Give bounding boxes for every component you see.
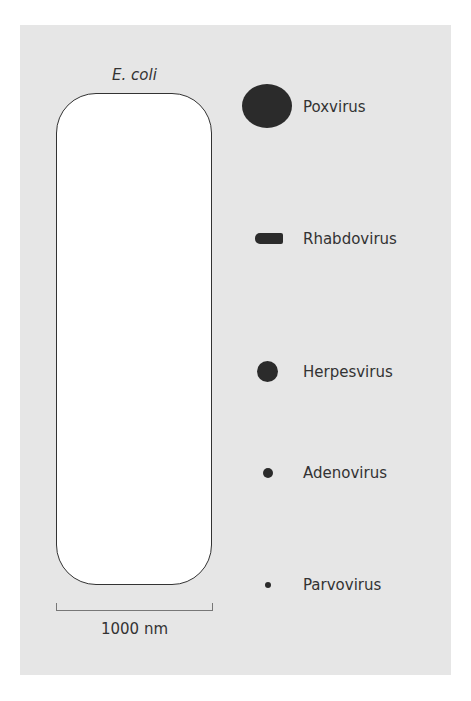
scale-bar	[56, 603, 213, 611]
parvovirus-label: Parvovirus	[303, 576, 381, 594]
parvovirus-shape	[265, 582, 271, 588]
rhabdovirus-label: Rhabdovirus	[303, 230, 397, 248]
herpesvirus-label: Herpesvirus	[303, 363, 393, 381]
poxvirus-shape	[242, 84, 292, 128]
herpesvirus-shape	[257, 361, 278, 382]
adenovirus-shape	[263, 468, 273, 478]
poxvirus-label: Poxvirus	[303, 98, 366, 116]
ecoli-cell	[56, 93, 212, 585]
rhabdovirus-shape	[255, 233, 283, 244]
adenovirus-label: Adenovirus	[303, 464, 387, 482]
ecoli-label: E. coli	[56, 66, 213, 84]
scale-bar-label: 1000 nm	[56, 620, 213, 638]
